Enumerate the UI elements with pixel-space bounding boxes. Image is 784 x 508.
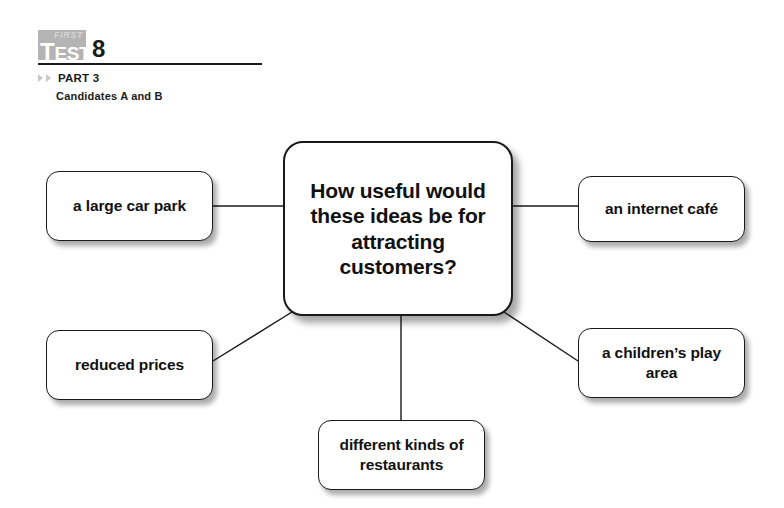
connector-reduced-prices-to-center — [213, 312, 292, 361]
center-node-center: How useful would these ideas be for attr… — [283, 141, 513, 316]
idea-node-internet-cafe: an internet café — [578, 176, 745, 242]
connector-center-to-play-area — [504, 312, 578, 361]
idea-node-car-park: a large car park — [46, 171, 213, 241]
idea-node-reduced-prices: reduced prices — [46, 330, 213, 400]
node-label-car-park: a large car park — [65, 196, 194, 216]
idea-node-play-area: a children’s play area — [578, 328, 745, 398]
node-label-center: How useful would these ideas be for attr… — [285, 178, 511, 279]
node-label-play-area: a children’s play area — [579, 343, 744, 383]
mind-map-diagram: How useful would these ideas be for attr… — [0, 0, 784, 508]
idea-node-restaurants: different kinds of restaurants — [318, 420, 485, 490]
node-label-reduced-prices: reduced prices — [67, 355, 192, 375]
node-label-restaurants: different kinds of restaurants — [319, 435, 484, 475]
page-root: FIRST TEST 8 PART 3 Candidates A and B H… — [0, 0, 784, 508]
node-label-internet-cafe: an internet café — [597, 199, 726, 219]
